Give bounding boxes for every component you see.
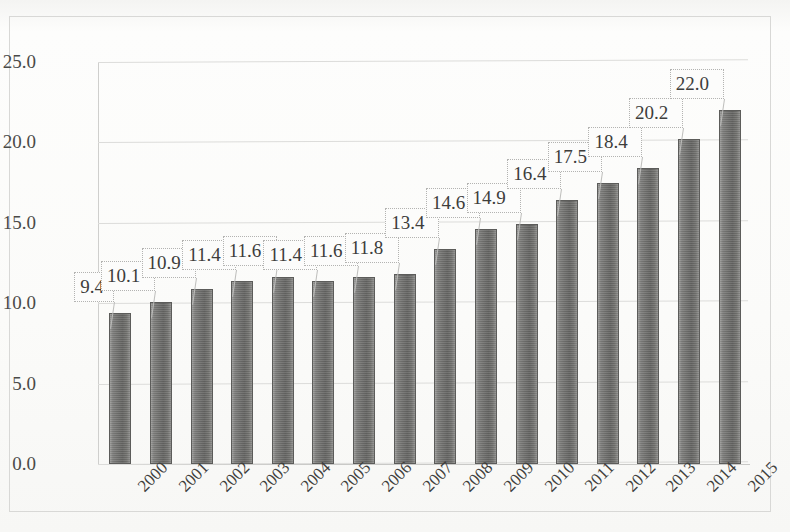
x-tick-label: 2012 <box>622 458 660 496</box>
x-tick-label: 2007 <box>419 458 457 496</box>
bar <box>272 277 294 464</box>
y-tick-label: 20.0 <box>0 131 36 153</box>
gridline-25.0 <box>98 59 748 63</box>
bar <box>191 289 213 464</box>
chart-frame: 0.05.010.015.020.025.0 9.410.110.911.411… <box>9 16 771 512</box>
y-tick-label: 15.0 <box>0 212 36 234</box>
bar <box>719 110 741 464</box>
x-tick-label: 2010 <box>541 458 579 496</box>
data-label-callout: 18.4 <box>588 127 642 157</box>
data-label-callout: 22.0 <box>670 69 724 99</box>
x-axis-tick-labels: 2000200120022003200420052006200720082009… <box>88 452 748 522</box>
y-axis-line <box>98 62 99 465</box>
cropped-title-sliver <box>0 0 790 12</box>
y-tick-label: 5.0 <box>0 373 36 395</box>
bar <box>475 229 497 464</box>
x-tick-label: 2011 <box>581 458 619 496</box>
x-tick-label: 2009 <box>500 458 538 496</box>
y-tick-label: 25.0 <box>0 51 36 73</box>
bar <box>637 168 659 464</box>
x-tick-label: 2000 <box>134 458 172 496</box>
x-tick-label: 2005 <box>337 458 375 496</box>
bar <box>597 183 619 464</box>
x-tick-label: 2004 <box>297 458 335 496</box>
x-tick-label: 2014 <box>703 458 741 496</box>
data-label-callout: 11.8 <box>345 233 399 263</box>
x-tick-label: 2002 <box>216 458 254 496</box>
bar <box>394 274 416 464</box>
bar <box>109 313 131 464</box>
bar <box>150 302 172 464</box>
bar <box>353 277 375 464</box>
y-tick-label: 10.0 <box>0 292 36 314</box>
x-tick-label: 2001 <box>175 458 213 496</box>
bar <box>516 224 538 464</box>
bar <box>434 249 456 464</box>
bar <box>312 281 334 464</box>
x-tick-label: 2003 <box>256 458 294 496</box>
bar <box>556 200 578 464</box>
plot-area: 0.05.010.015.020.025.0 9.410.110.911.411… <box>98 62 748 464</box>
x-tick-label: 2006 <box>378 458 416 496</box>
bar <box>678 139 700 464</box>
bar <box>231 281 253 464</box>
y-tick-label: 0.0 <box>0 453 36 475</box>
x-tick-label: 2013 <box>662 458 700 496</box>
gridline-20.0 <box>98 140 748 144</box>
data-label-callout: 20.2 <box>629 98 683 128</box>
x-tick-label: 2008 <box>459 458 497 496</box>
